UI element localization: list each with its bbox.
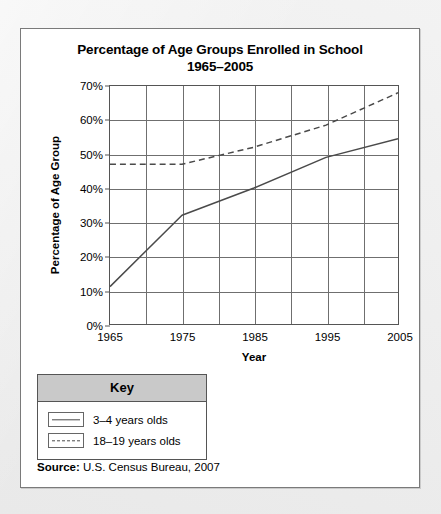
series-line — [110, 139, 398, 287]
key-entries: 3–4 years olds18–19 years olds — [38, 402, 206, 459]
key-entry-label: 18–19 years olds — [93, 435, 181, 447]
source-label: Source: — [37, 461, 80, 473]
x-tick-label: 1965 — [97, 331, 123, 343]
y-tick-mark — [105, 326, 110, 327]
key-entry-label: 3–4 years olds — [93, 414, 168, 426]
x-tick-label: 2005 — [387, 331, 413, 343]
y-tick-label: 30% — [80, 217, 103, 229]
key-entry: 18–19 years olds — [38, 430, 206, 451]
source-text: U.S. Census Bureau, 2007 — [83, 461, 220, 473]
solid-line-swatch-icon — [48, 412, 84, 427]
plot-frame: 0%10%20%30%40%50%60%70% 1965197519851995… — [109, 85, 399, 325]
chart-card: Percentage of Age Groups Enrolled in Sch… — [20, 28, 420, 488]
y-axis-title: Percentage of Age Group — [47, 85, 63, 325]
x-axis-title: Year — [109, 351, 399, 363]
x-tick-label: 1995 — [315, 331, 341, 343]
series-lines — [110, 86, 398, 324]
series-line — [110, 93, 398, 164]
dashed-line-swatch-icon — [48, 433, 84, 448]
key-header: Key — [38, 375, 206, 402]
key-entry: 3–4 years olds — [38, 409, 206, 430]
chart-key: Key 3–4 years olds18–19 years olds — [37, 374, 207, 460]
chart-area: Percentage of Age Group 0%10%20%30%40%50… — [21, 29, 421, 369]
y-tick-label: 50% — [80, 149, 103, 161]
y-tick-label: 40% — [80, 183, 103, 195]
y-tick-label: 20% — [80, 251, 103, 263]
x-tick-label: 1975 — [170, 331, 196, 343]
x-tick-label: 1985 — [242, 331, 268, 343]
source-note: Source: U.S. Census Bureau, 2007 — [37, 461, 220, 473]
y-tick-label: 70% — [80, 80, 103, 92]
y-tick-label: 60% — [80, 114, 103, 126]
y-tick-label: 10% — [80, 286, 103, 298]
